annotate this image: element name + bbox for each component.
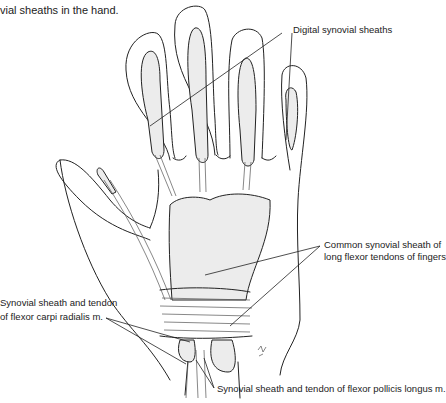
label-fcr-line2: of flexor carpi radialis m. <box>0 310 103 323</box>
label-flexor-pollicis-longus: Synovial sheath and tendon of flexor pol… <box>217 382 446 395</box>
artist-signature <box>258 346 266 356</box>
common-synovial-sheath <box>169 194 270 300</box>
label-common-synovial-sheath-line2: long flexor tendons of fingers <box>324 250 446 263</box>
digital-sheaths <box>97 28 298 194</box>
label-fcr-line1: Synovial sheath and tendon <box>0 296 103 309</box>
label-digital-synovial-sheaths: Digital synovial sheaths <box>293 23 392 36</box>
